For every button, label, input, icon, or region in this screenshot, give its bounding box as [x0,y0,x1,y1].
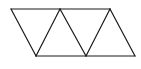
diagonal-1 [36,9,60,56]
left-edge [11,9,36,56]
right-edge [110,9,135,56]
diagonal-3 [86,9,110,56]
diagonal-2 [60,9,86,56]
triangle-strip-diagram [0,0,141,69]
